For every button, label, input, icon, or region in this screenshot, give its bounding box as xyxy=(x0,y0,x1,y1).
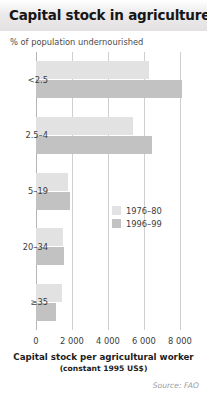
y-axis-label: 20–34 xyxy=(0,242,48,252)
legend-swatch xyxy=(112,206,121,215)
x-axis-tick-label: 8 000 xyxy=(168,336,192,346)
x-axis-title: Capital stock per agricultural worker xyxy=(0,352,207,362)
bar xyxy=(36,117,133,135)
legend-swatch xyxy=(112,219,121,228)
page-title: Capital stock in agriculture xyxy=(9,7,207,23)
legend-label: 1976–80 xyxy=(126,206,162,216)
y-axis-label: <2.5 xyxy=(0,75,48,85)
bar xyxy=(36,80,182,98)
legend-item: 1996–99 xyxy=(112,217,162,230)
y-axis-label: ≥35 xyxy=(0,297,48,307)
chart-figure: Capital stock in agriculture % of popula… xyxy=(0,0,207,396)
chart-subtitle: % of population undernourished xyxy=(10,37,143,47)
x-axis-tick-label: 2 000 xyxy=(60,336,84,346)
chart-legend: 1976–801996–99 xyxy=(112,204,162,230)
x-axis-tick-label: 0 xyxy=(33,336,38,346)
x-axis-subtitle: (constant 1995 US$) xyxy=(0,364,207,373)
bar xyxy=(36,136,152,154)
x-axis-tick-label: 6 000 xyxy=(132,336,156,346)
legend-label: 1996–99 xyxy=(126,219,162,229)
y-axis-label: 5–19 xyxy=(0,186,48,196)
y-axis-label: 2.5–4 xyxy=(0,130,48,140)
legend-item: 1976–80 xyxy=(112,204,162,217)
bar xyxy=(36,61,149,79)
x-axis-tick-label: 4 000 xyxy=(96,336,120,346)
plot-area xyxy=(36,52,180,330)
source-note: Source: FAO xyxy=(153,381,199,390)
